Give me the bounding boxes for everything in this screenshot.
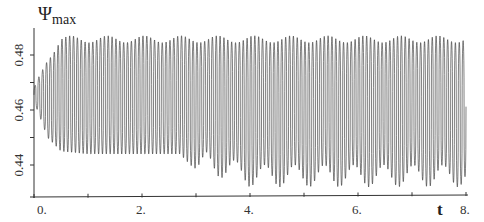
y-axis-title: Ψmax <box>38 3 76 28</box>
y-tick-label-0-46: 0.46 <box>11 93 27 127</box>
y-axis-title-subscript: max <box>52 12 76 27</box>
x-axis-title: t <box>437 200 443 220</box>
psi-max-plot <box>0 0 484 222</box>
y-tick-label-0-48: 0.48 <box>11 38 27 72</box>
oscillation-series <box>34 36 466 187</box>
y-tick-label-0-44: 0.44 <box>11 148 27 182</box>
x-tick-label-0: 0. <box>37 202 47 218</box>
x-tick-label-8: 8. <box>460 202 470 218</box>
x-tick-label-6: 6. <box>352 202 362 218</box>
y-axis-ticks <box>30 55 34 165</box>
x-axis-line <box>30 195 468 197</box>
x-tick-label-4: 4. <box>244 202 254 218</box>
psi-max-line <box>34 36 466 187</box>
y-axis-title-main: Ψ <box>38 3 52 24</box>
x-tick-label-2: 2. <box>136 202 146 218</box>
